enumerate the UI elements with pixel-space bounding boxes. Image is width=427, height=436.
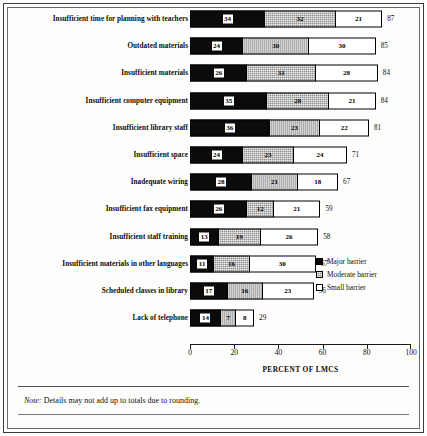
stacked-bar: 343221 [190, 11, 411, 28]
x-axis-tick-label: 60 [319, 348, 327, 357]
category-label: Insufficient staff training [10, 232, 188, 241]
stacked-bar: 131926 [190, 228, 411, 245]
bar-segment-major: 35 [190, 92, 267, 109]
segment-value-label: 23 [290, 124, 299, 131]
bar-segment-small: 30 [308, 38, 375, 55]
segment-value-label: 26 [214, 205, 224, 214]
segment-value-label: 8 [243, 315, 247, 322]
note-divider-bottom [18, 414, 409, 415]
x-axis-tick-label: 40 [275, 348, 283, 357]
chart-row: Insufficient staff training13192658 [10, 226, 419, 248]
segment-value-label: 18 [314, 179, 321, 186]
stacked-bar: 242324 [190, 147, 411, 164]
chart-row: Insufficient materials26312884 [10, 62, 419, 84]
category-label: Insufficient computer equipment [10, 96, 188, 105]
x-axis-tick-label: 80 [363, 348, 371, 357]
figure-container: Insufficient time for planning with teac… [0, 0, 427, 436]
x-axis-tick-label: 100 [405, 348, 416, 357]
stacked-bar: 263128 [190, 65, 411, 82]
bar-segment-major: 14 [190, 310, 221, 327]
note-text: Details may not add up to totals due to … [44, 396, 200, 405]
legend-label-major: Major barrier [327, 257, 367, 266]
x-axis-line [190, 344, 411, 345]
bar-segment-moderate: 12 [246, 201, 274, 218]
segment-value-label: 23 [284, 288, 291, 295]
bar-segment-moderate: 31 [246, 65, 316, 82]
bar-segment-major: 26 [190, 201, 247, 218]
bar-segment-small: 21 [335, 11, 382, 28]
segment-value-label: 13 [199, 232, 209, 241]
chart-row: Insufficient library staff36232281 [10, 117, 419, 139]
bar-segment-major: 26 [190, 65, 247, 82]
category-label: Insufficient materials in other language… [10, 259, 188, 268]
bar-segment-moderate: 30 [242, 38, 309, 55]
figure-note: Note: Details may not add up to totals d… [24, 396, 200, 405]
stacked-bar: 352821 [190, 92, 411, 109]
stacked-bar: 1478 [190, 310, 411, 327]
chart-row: Insufficient space24232471 [10, 144, 419, 166]
note-lead-label: Note: [24, 396, 42, 405]
segment-value-label: 12 [256, 206, 265, 213]
bar-segment-moderate: 28 [266, 92, 329, 109]
segment-value-label: 7 [225, 315, 231, 322]
segment-value-label: 28 [343, 70, 350, 77]
segment-value-label: 23 [263, 152, 272, 159]
category-label: Insufficient space [10, 151, 188, 160]
bar-total-label: 71 [352, 151, 359, 159]
bar-segment-major: 36 [190, 119, 270, 136]
segment-value-label: 16 [240, 288, 249, 295]
category-label: Insufficient time for planning with teac… [10, 15, 188, 24]
bar-segment-small: 22 [319, 119, 369, 136]
note-divider-top [18, 386, 409, 387]
legend-item-small: Small barrier [316, 281, 416, 293]
segment-value-label: 14 [200, 314, 210, 323]
stacked-bar: 282118 [190, 174, 411, 191]
segment-value-label: 31 [277, 70, 286, 77]
chart-row: Inadequate wiring28211867 [10, 171, 419, 193]
legend-swatch-small-icon [316, 284, 323, 291]
legend-swatch-major-icon [316, 258, 323, 265]
bar-segment-moderate: 21 [251, 174, 298, 191]
bar-segment-major: 11 [190, 255, 214, 272]
bar-total-label: 84 [381, 97, 388, 105]
segment-value-label: 21 [293, 206, 300, 213]
category-label: Lack of telephone [10, 314, 188, 323]
segment-value-label: 28 [216, 178, 226, 187]
segment-value-label: 36 [225, 123, 235, 132]
segment-value-label: 21 [270, 179, 279, 186]
bar-total-label: 58 [323, 233, 330, 241]
bar-segment-major: 13 [190, 228, 219, 245]
bar-segment-small: 18 [297, 174, 338, 191]
chart-row: Insufficient computer equipment35282184 [10, 90, 419, 112]
chart-legend: Major barrier Moderate barrier Small bar… [316, 255, 416, 294]
bar-segment-small: 23 [262, 283, 314, 300]
stacked-bar: 243030 [190, 38, 411, 55]
bar-total-label: 84 [383, 69, 390, 77]
bar-segment-major: 28 [190, 174, 252, 191]
segment-value-label: 32 [295, 16, 304, 23]
bar-segment-major: 24 [190, 147, 243, 164]
bar-segment-moderate: 19 [218, 228, 261, 245]
bar-segment-major: 34 [190, 11, 265, 28]
segment-value-label: 17 [204, 287, 214, 296]
bar-segment-moderate: 32 [264, 11, 336, 28]
bar-total-label: 59 [325, 205, 332, 213]
segment-value-label: 21 [355, 16, 362, 23]
category-label: Inadequate wiring [10, 178, 188, 187]
category-label: Insufficient materials [10, 69, 188, 78]
x-axis-title: PERCENT OF LMCS [190, 365, 411, 374]
legend-swatch-moderate-icon [316, 271, 323, 278]
bar-segment-small: 26 [260, 228, 318, 245]
bar-total-label: 85 [381, 42, 388, 50]
chart-row: Outdated materials24303085 [10, 35, 419, 57]
segment-value-label: 30 [271, 43, 280, 50]
chart-row: Lack of telephone147829 [10, 307, 419, 329]
legend-item-major: Major barrier [316, 255, 416, 267]
segment-value-label: 21 [348, 97, 355, 104]
category-label: Insufficient library staff [10, 123, 188, 132]
x-axis-tick-label: 20 [230, 348, 238, 357]
segment-value-label: 11 [197, 259, 207, 268]
legend-label-moderate: Moderate barrier [327, 270, 377, 279]
x-axis-tick-label: 0 [188, 348, 192, 357]
legend-label-small: Small barrier [327, 283, 366, 292]
